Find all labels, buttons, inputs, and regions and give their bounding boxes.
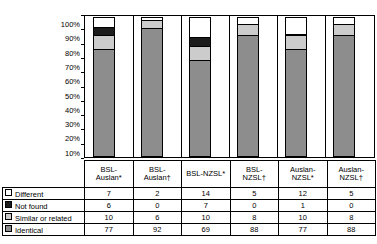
table-value-cell: 92 (133, 224, 182, 236)
category-header-cell: Auslan-NZSL† (327, 161, 376, 188)
category-label-line: Auslan* (96, 173, 122, 182)
bar-segment (237, 35, 259, 157)
stacked-bar (189, 17, 211, 157)
table-value-cell: 6 (85, 200, 134, 212)
category-header-cell: BSL-NZSL* (182, 161, 231, 188)
bar-segment (189, 17, 211, 37)
stacked-bar (333, 17, 355, 157)
bar-segment (93, 17, 115, 27)
table-row: Identical779269887788 (3, 224, 376, 236)
category-label-line: BSL-NZSL* (186, 169, 225, 178)
table-value-cell: 2 (133, 188, 182, 200)
y-axis-tick-label: 90% (50, 35, 80, 43)
table-value-cell: 88 (327, 224, 376, 236)
legend-swatch-not-found-icon (5, 201, 12, 208)
y-axis-tick-mark (81, 158, 84, 159)
stacked-bar (285, 17, 307, 157)
legend-label: Identical (15, 225, 43, 234)
table-value-cell: 10 (85, 212, 134, 224)
column-separator (277, 16, 278, 157)
legend-swatch-identical-icon (5, 225, 12, 232)
bar-segment (189, 37, 211, 47)
category-header-cell: BSL-NZSL† (230, 161, 279, 188)
table-value-cell: 6 (133, 212, 182, 224)
column-separator (133, 16, 134, 157)
legend-label: Not found (15, 201, 48, 210)
bar-segment (93, 35, 115, 49)
y-axis-tick-label: 60% (50, 78, 80, 86)
table-value-cell: 1 (279, 200, 328, 212)
legend-swatch-similar-icon (5, 213, 12, 220)
stacked-bar (237, 17, 259, 157)
plot-frame (84, 15, 375, 158)
category-label-line: Auslan† (144, 173, 171, 182)
legend-row-label-cell[interactable]: Different (3, 188, 85, 200)
bar-segment (189, 60, 211, 157)
bar-segment (93, 27, 115, 35)
bar-segment (333, 35, 355, 157)
category-header-cell: Auslan-NZSL* (279, 161, 328, 188)
y-axis-tick-label: 40% (50, 107, 80, 115)
legend-row-label-cell[interactable]: Identical (3, 224, 85, 236)
y-axis-tick-label: 30% (50, 121, 80, 129)
bar-segment (285, 17, 307, 34)
legend-label: Similar or related (15, 213, 72, 222)
y-axis-tick-label: 10% (50, 150, 80, 158)
y-axis-tick-label: 80% (50, 50, 80, 58)
table-row: Similar or related106108108 (3, 212, 376, 224)
category-label-line: NZSL* (292, 173, 314, 182)
table-value-cell: 10 (279, 212, 328, 224)
legend-row-label-cell[interactable]: Not found (3, 200, 85, 212)
bar-segment (285, 35, 307, 49)
bar-segment (141, 20, 163, 28)
table-row: Different72145125 (3, 188, 376, 200)
table-row: Not found607010 (3, 200, 376, 212)
category-label-line: NZSL† (340, 173, 363, 182)
table-value-cell: 77 (279, 224, 328, 236)
category-header-cell: BSL-Auslan† (133, 161, 182, 188)
table-value-cell: 77 (85, 224, 134, 236)
legend-row-label-cell[interactable]: Similar or related (3, 212, 85, 224)
data-table: BSL-Auslan*BSL-Auslan†BSL-NZSL*BSL-NZSL†… (2, 160, 376, 236)
table-value-cell: 5 (230, 188, 279, 200)
y-axis: 100%90%80%70%60%50%40%30%20%10%0% (50, 10, 80, 160)
y-axis-tick-label: 50% (50, 93, 80, 101)
column-separator (325, 16, 326, 157)
table-value-cell: 8 (230, 212, 279, 224)
table-value-cell: 14 (182, 188, 231, 200)
y-axis-tick-label: 100% (50, 21, 80, 29)
bar-segment (237, 17, 259, 24)
bar-segment (93, 49, 115, 157)
category-label-line: NZSL† (243, 173, 266, 182)
bar-segment (285, 49, 307, 157)
table-value-cell: 69 (182, 224, 231, 236)
bar-segment (141, 28, 163, 157)
column-separator (181, 16, 182, 157)
bar-segment (333, 24, 355, 35)
table-value-cell: 0 (327, 200, 376, 212)
legend-swatch-different-icon (5, 189, 12, 196)
table-corner-cell (3, 161, 85, 188)
table-value-cell: 8 (327, 212, 376, 224)
table-value-cell: 5 (327, 188, 376, 200)
table-value-cell: 0 (133, 200, 182, 212)
data-table-wrapper: BSL-Auslan*BSL-Auslan†BSL-NZSL*BSL-NZSL†… (2, 160, 375, 232)
column-separator (229, 16, 230, 157)
table-value-cell: 10 (182, 212, 231, 224)
category-header-cell: BSL-Auslan* (85, 161, 134, 188)
table-value-cell: 88 (230, 224, 279, 236)
table-value-cell: 12 (279, 188, 328, 200)
table-value-cell: 7 (182, 200, 231, 212)
bar-segment (333, 17, 355, 24)
y-axis-tick-label: 20% (50, 135, 80, 143)
bar-segment (237, 24, 259, 35)
plot-area: 100%90%80%70%60%50%40%30%20%10%0% (0, 0, 377, 160)
chart-root: 100%90%80%70%60%50%40%30%20%10%0% BSL-Au… (0, 0, 377, 244)
stacked-bar (141, 17, 163, 157)
bar-segment (189, 46, 211, 60)
table-row-categories: BSL-Auslan*BSL-Auslan†BSL-NZSL*BSL-NZSL†… (3, 161, 376, 188)
y-axis-tick-label: 70% (50, 64, 80, 72)
table-value-cell: 7 (85, 188, 134, 200)
stacked-bar (93, 17, 115, 157)
legend-label: Different (15, 189, 43, 198)
